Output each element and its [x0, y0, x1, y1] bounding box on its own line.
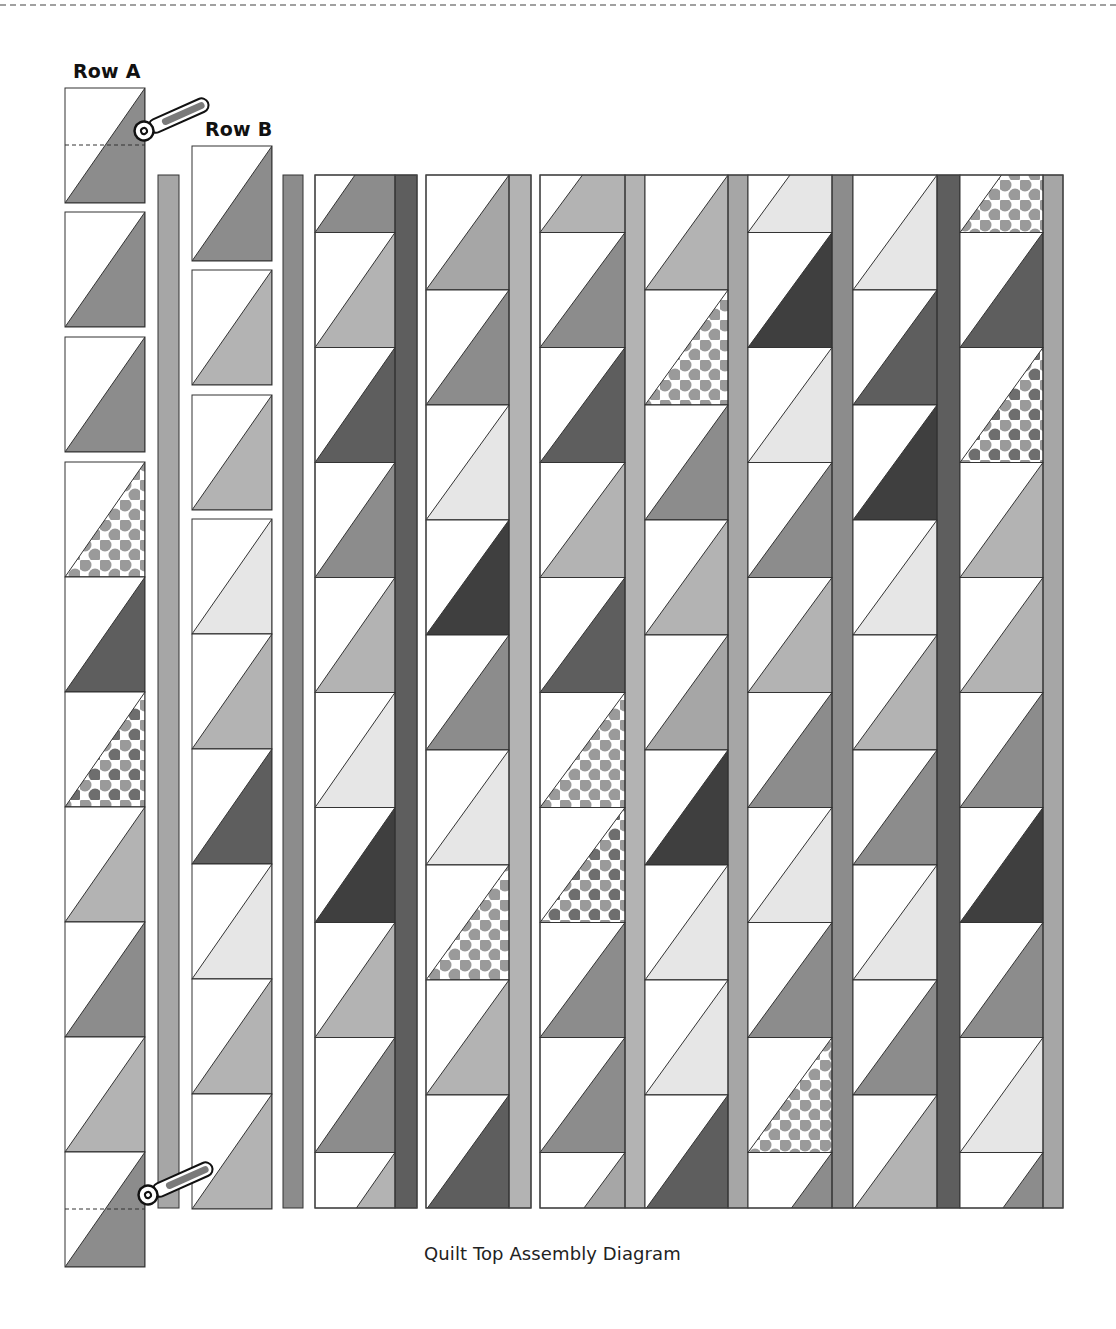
row-a-strip-block	[65, 577, 145, 692]
column-block	[853, 1095, 937, 1210]
column-block	[645, 750, 728, 865]
column-block	[540, 348, 625, 463]
column-block	[853, 290, 937, 405]
column-block	[315, 923, 395, 1038]
sashing-strip	[625, 175, 645, 1208]
column-block	[315, 463, 395, 578]
row-a-block	[65, 88, 145, 203]
column-block	[540, 578, 625, 693]
row-a-block	[65, 337, 145, 452]
column-block	[748, 693, 832, 808]
column-block	[426, 980, 509, 1095]
row-b-block	[192, 270, 272, 385]
column-block	[748, 808, 832, 923]
sashing-strip	[509, 175, 531, 1208]
column-block	[853, 405, 937, 520]
column-block	[748, 923, 832, 1038]
sashing-strip	[395, 175, 417, 1208]
column-block	[540, 923, 625, 1038]
sashing-strip	[937, 175, 960, 1208]
column-block	[853, 635, 937, 750]
column-block	[426, 175, 509, 290]
column-block	[748, 233, 832, 348]
row-b-strip-block	[192, 1094, 272, 1209]
column-block	[960, 1038, 1043, 1153]
row-b-strip-block	[192, 749, 272, 864]
column-block	[426, 635, 509, 750]
column-block	[645, 405, 728, 520]
column-block	[540, 693, 625, 808]
row-a-label: Row A	[73, 60, 141, 82]
column-block	[645, 520, 728, 635]
row-b-strip-block	[192, 519, 272, 634]
column-block	[960, 693, 1043, 808]
row-b-label: Row B	[205, 118, 272, 140]
row-a-strip-block	[65, 462, 145, 577]
column-block	[960, 923, 1043, 1038]
row-b-strip-block	[192, 864, 272, 979]
row-b-block	[192, 146, 272, 261]
column-block	[540, 233, 625, 348]
column-block	[960, 578, 1043, 693]
column-block	[315, 808, 395, 923]
column-block	[426, 290, 509, 405]
row-b-block	[192, 395, 272, 510]
column-block	[960, 233, 1043, 348]
sashing-strip	[1043, 175, 1063, 1208]
quilt-assembly-diagram	[0, 0, 1116, 1329]
row-a-strip-block	[65, 807, 145, 922]
column-block	[748, 1038, 832, 1153]
column-block	[748, 463, 832, 578]
column-block	[315, 578, 395, 693]
row-a-block	[65, 212, 145, 327]
row-a-strip-block	[65, 1152, 145, 1267]
column-block	[853, 750, 937, 865]
column-block	[426, 520, 509, 635]
row-b-strip-block	[192, 979, 272, 1094]
row-b-strip-block	[192, 634, 272, 749]
column-block	[645, 290, 728, 405]
column-block	[645, 980, 728, 1095]
diagram-caption: Quilt Top Assembly Diagram	[424, 1243, 681, 1264]
row-a-strip-block	[65, 692, 145, 807]
quilt-blocks-layer	[65, 88, 1063, 1268]
row-a-strip-block	[65, 1037, 145, 1152]
row-a-strip-block	[65, 922, 145, 1037]
column-block	[645, 175, 728, 290]
column-block	[426, 750, 509, 865]
column-block	[315, 348, 395, 463]
column-block	[960, 348, 1043, 463]
column-block	[853, 865, 937, 980]
column-block	[960, 808, 1043, 923]
column-block	[540, 808, 625, 923]
column-block	[853, 520, 937, 635]
column-block	[540, 463, 625, 578]
column-block	[645, 865, 728, 980]
sashing-strip	[832, 175, 853, 1208]
column-block	[748, 348, 832, 463]
column-block	[426, 865, 509, 980]
sashing-strip	[158, 175, 179, 1208]
column-block	[960, 1153, 1043, 1268]
column-block	[748, 1153, 832, 1268]
column-block	[960, 463, 1043, 578]
sashing-strip	[728, 175, 748, 1208]
column-block	[853, 980, 937, 1095]
column-block	[853, 175, 937, 290]
column-block	[645, 1095, 728, 1210]
column-block	[315, 693, 395, 808]
column-block	[315, 1038, 395, 1153]
column-block	[426, 1095, 509, 1210]
sashing-strip	[283, 175, 303, 1208]
column-block	[748, 578, 832, 693]
column-block	[426, 405, 509, 520]
column-block	[540, 1038, 625, 1153]
column-block	[315, 1153, 395, 1268]
column-block	[315, 233, 395, 348]
column-block	[645, 635, 728, 750]
